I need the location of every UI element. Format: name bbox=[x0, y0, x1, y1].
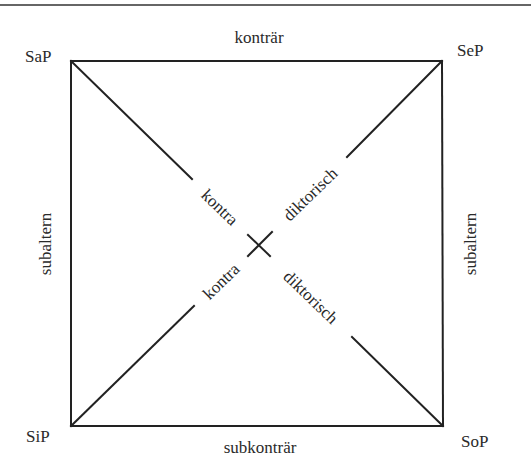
corner-label-sop: SoP bbox=[461, 432, 488, 451]
edge-right-subaltern bbox=[442, 61, 443, 426]
corner-label-sap: SaP bbox=[25, 47, 51, 66]
logical-square-diagram: SaP SeP SiP SoP konträr subkonträr subal… bbox=[0, 0, 531, 467]
corner-label-sep: SeP bbox=[457, 41, 483, 60]
corner-label-sip: SiP bbox=[26, 427, 50, 446]
relation-label-subcontrary: subkonträr bbox=[224, 438, 297, 457]
diagonal-label-diktorisch-lower: diktorisch bbox=[280, 267, 342, 328]
diagonal-label-kontra-lower: kontra bbox=[199, 259, 244, 303]
relation-label-contrary: konträr bbox=[234, 28, 283, 47]
relation-label-subaltern-right: subaltern bbox=[461, 212, 480, 275]
diagonal-label-diktorisch-upper: diktorisch bbox=[279, 164, 341, 225]
relation-label-subaltern-left: subaltern bbox=[36, 212, 55, 275]
diagonal-label-kontra-upper: kontra bbox=[197, 185, 242, 229]
